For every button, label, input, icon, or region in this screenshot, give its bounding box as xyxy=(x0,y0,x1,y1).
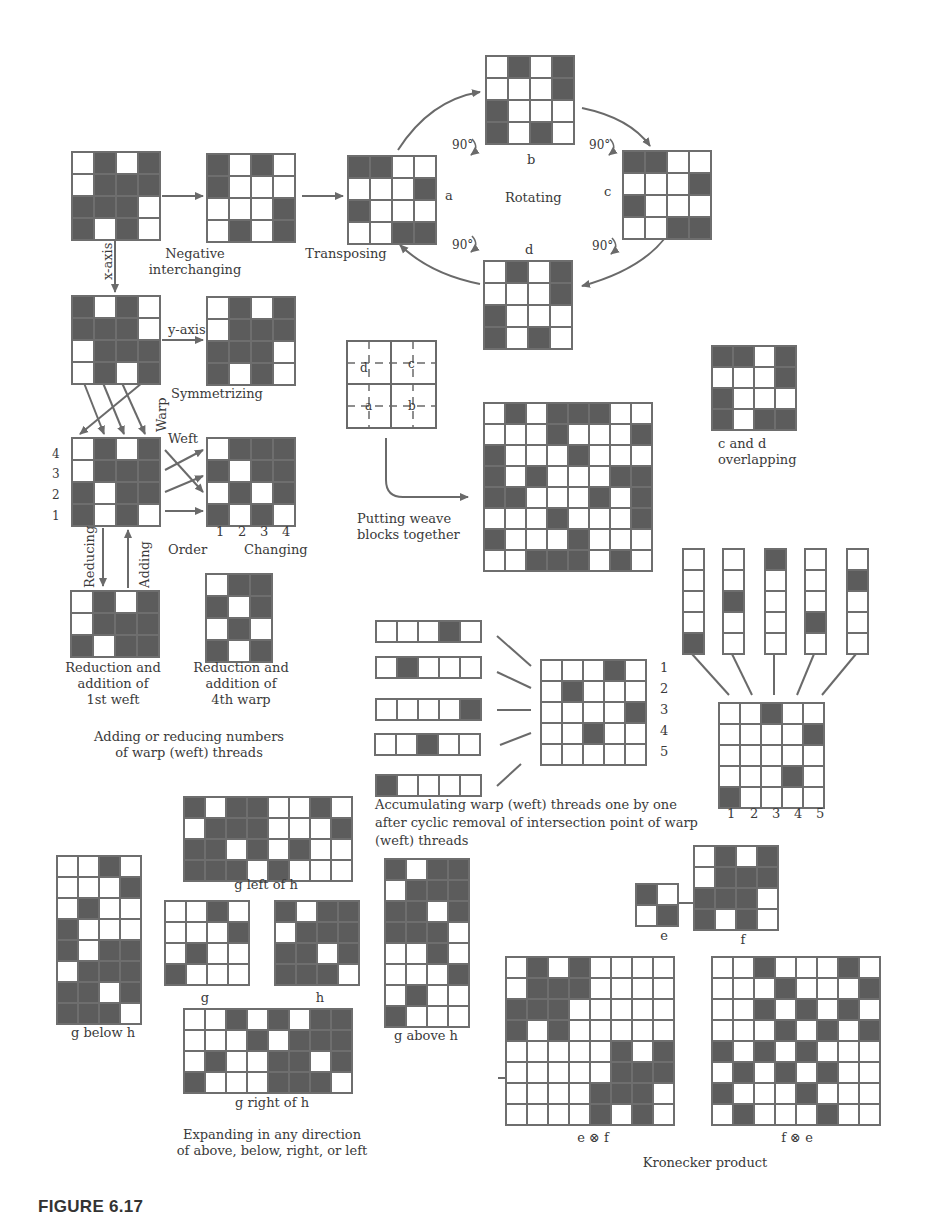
weft-up-cell xyxy=(121,920,140,939)
weft-up-cell xyxy=(542,724,561,743)
warp-up-cell xyxy=(269,1052,288,1071)
weft-up-cell xyxy=(776,958,795,977)
warp-up-cell xyxy=(72,636,92,656)
label-90-3: 90° xyxy=(452,237,473,253)
warp-up-cell xyxy=(509,57,529,77)
label-accumulating: Accumulating warp (weft) threads one by … xyxy=(375,796,698,850)
weft-up-cell xyxy=(654,1084,673,1103)
grid-e xyxy=(635,883,679,927)
warp-up-cell xyxy=(818,1021,837,1040)
grid-h xyxy=(274,900,360,986)
weft-up-cell xyxy=(269,798,288,817)
acc-row-1: 1 xyxy=(660,660,668,676)
weft-up-cell xyxy=(227,1073,246,1092)
weft-up-cell xyxy=(100,983,119,1002)
weft-up-cell xyxy=(393,179,413,199)
warp-up-cell xyxy=(776,410,795,429)
quad-label-b: b xyxy=(408,398,416,414)
warp-up-cell xyxy=(766,550,785,569)
warp-up-cell xyxy=(117,341,137,361)
weft-up-cell xyxy=(386,965,405,984)
warp-up-cell xyxy=(79,983,98,1002)
weft-up-cell xyxy=(658,885,677,904)
weft-up-cell xyxy=(227,840,246,859)
warp-up-cell xyxy=(440,622,459,641)
warp-up-cell xyxy=(528,958,547,977)
warp-up-cell xyxy=(626,703,645,722)
warp-up-cell xyxy=(818,1105,837,1124)
weft-up-cell xyxy=(121,1004,140,1023)
weft-up-cell xyxy=(684,613,703,632)
weft-up-cell xyxy=(734,1021,753,1040)
weft-up-cell xyxy=(818,1042,837,1061)
weft-up-cell xyxy=(797,1021,816,1040)
weft-up-cell xyxy=(208,199,228,219)
weft-up-cell xyxy=(806,592,825,611)
weft-up-cell xyxy=(570,1021,589,1040)
warp-up-cell xyxy=(95,153,115,173)
label-f-kron-e: f ⊗ e xyxy=(781,1130,813,1146)
warp-up-cell xyxy=(79,899,98,918)
weft-up-cell xyxy=(548,467,567,486)
weft-up-cell xyxy=(386,881,405,900)
acc-col-2: 2 xyxy=(750,806,758,822)
warp-up-cell xyxy=(605,661,624,680)
weft-up-cell xyxy=(570,1084,589,1103)
weft-up-cell xyxy=(720,704,739,723)
weft-up-cell xyxy=(724,571,743,590)
weft-up-cell xyxy=(419,622,438,641)
warp-up-cell xyxy=(449,860,468,879)
label-g-below-h: g below h xyxy=(71,1025,135,1041)
warp-up-cell xyxy=(117,197,137,217)
weft-up-cell xyxy=(506,551,525,570)
weft-up-cell xyxy=(311,840,330,859)
weft-up-cell xyxy=(762,725,781,744)
warp-up-cell xyxy=(549,979,568,998)
weft-up-cell xyxy=(529,306,549,326)
grid-weft-4 xyxy=(374,733,481,756)
weft-up-cell xyxy=(428,965,447,984)
warp-up-cell xyxy=(206,840,225,859)
weft-up-cell xyxy=(741,704,760,723)
weft-up-cell xyxy=(208,439,228,459)
label-weft: Weft xyxy=(168,431,198,447)
weft-up-cell xyxy=(79,857,98,876)
weft-up-cell xyxy=(529,284,549,304)
weft-up-cell xyxy=(461,658,480,677)
weft-up-cell xyxy=(487,57,507,77)
warp-up-cell xyxy=(252,155,272,175)
weft-up-cell xyxy=(206,1010,225,1029)
weft-up-cell xyxy=(804,746,823,765)
weft-up-cell xyxy=(570,1042,589,1061)
label-putting-together: Putting weave blocks together xyxy=(357,511,460,543)
warp-up-cell xyxy=(95,461,115,481)
weft-up-cell xyxy=(632,404,651,423)
weft-up-cell xyxy=(551,328,571,348)
weft-up-cell xyxy=(252,298,272,318)
weft-up-cell xyxy=(371,201,391,221)
weft-up-cell xyxy=(839,1042,858,1061)
weft-up-cell xyxy=(269,819,288,838)
weft-up-cell xyxy=(713,1000,732,1019)
warp-up-cell xyxy=(339,902,358,921)
warp-up-cell xyxy=(527,467,546,486)
weft-up-cell xyxy=(755,1105,774,1124)
warp-up-cell xyxy=(230,320,250,340)
weft-up-cell xyxy=(252,199,272,219)
weft-up-cell xyxy=(758,889,777,908)
warp-up-cell xyxy=(386,902,405,921)
weft-up-cell xyxy=(73,461,93,481)
weft-up-cell xyxy=(386,986,405,1005)
weft-up-cell xyxy=(755,368,774,387)
weft-up-cell xyxy=(762,767,781,786)
weft-up-cell xyxy=(297,902,316,921)
weft-up-cell xyxy=(100,920,119,939)
weft-up-cell xyxy=(506,446,525,465)
warp-up-cell xyxy=(185,1073,204,1092)
weft-up-cell xyxy=(724,634,743,653)
warp-up-cell xyxy=(138,614,158,634)
warp-up-cell xyxy=(590,488,609,507)
warp-up-cell xyxy=(569,404,588,423)
warp-up-cell xyxy=(252,320,272,340)
weft-up-cell xyxy=(605,724,624,743)
